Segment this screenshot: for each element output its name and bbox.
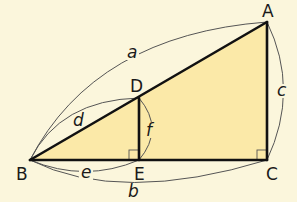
segment-label-b: b (128, 181, 139, 201)
triangle-diagram: A B C D E a b c d e f (0, 0, 297, 202)
segment-label-d: d (73, 110, 84, 130)
segment-label-a: a (127, 42, 137, 62)
arc-b (30, 160, 267, 183)
segment-label-e: e (81, 162, 91, 182)
point-label-b: B (16, 164, 28, 184)
segment-label-c: c (277, 80, 287, 100)
point-label-c: C (266, 164, 278, 184)
point-label-a: A (262, 1, 274, 21)
point-label-d: D (130, 76, 143, 96)
